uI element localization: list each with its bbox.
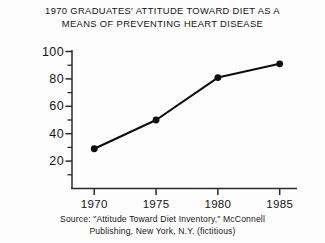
- chart-figure: 1970 GRADUATES' ATTITUDE TOWARD DIET AS …: [0, 0, 325, 243]
- x-axis-label-1970: 1970: [81, 198, 108, 210]
- source-caption: Source: "Attitude Toward Diet Inventory,…: [0, 214, 325, 237]
- x-axis-label-1985: 1985: [266, 198, 293, 210]
- x-axis-tick-labels: 1970197519801985: [0, 0, 325, 243]
- x-axis-label-1980: 1980: [204, 198, 231, 210]
- plot-area: 20406080100 1970197519801985: [0, 0, 325, 243]
- x-axis-label-1975: 1975: [143, 198, 170, 210]
